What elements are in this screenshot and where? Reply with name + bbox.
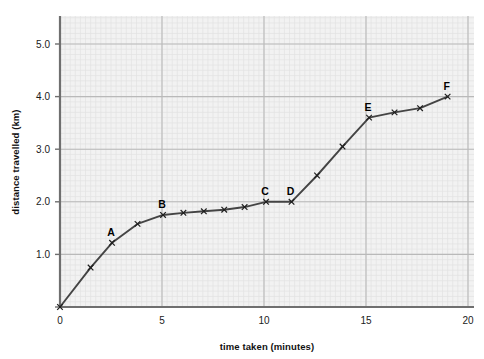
chart-canvas: 1.02.03.04.05.0 05101520 ABCDEF time tak… xyxy=(0,0,484,359)
point-label-f: F xyxy=(443,80,450,92)
point-label-a: A xyxy=(107,226,115,238)
point-label-e: E xyxy=(365,101,372,113)
point-label-c: C xyxy=(261,185,269,197)
x-tick-label: 5 xyxy=(159,315,165,326)
x-tick-label: 0 xyxy=(57,315,63,326)
y-tick-label: 2.0 xyxy=(36,196,50,207)
y-tick-label: 3.0 xyxy=(36,144,50,155)
point-label-b: B xyxy=(158,198,166,210)
y-axis-tick-labels: 1.02.03.04.05.0 xyxy=(36,39,50,260)
x-axis-title: time taken (minutes) xyxy=(220,341,314,352)
y-tick-label: 4.0 xyxy=(36,91,50,102)
x-tick-label: 15 xyxy=(360,315,372,326)
y-axis-title: distance travelled (km) xyxy=(10,109,21,214)
x-tick-label: 20 xyxy=(462,315,474,326)
distance-time-chart: 1.02.03.04.05.0 05101520 ABCDEF time tak… xyxy=(0,0,484,359)
x-tick-label: 10 xyxy=(258,315,270,326)
y-tick-label: 5.0 xyxy=(36,39,50,50)
x-axis-tick-labels: 05101520 xyxy=(57,315,474,326)
point-label-d: D xyxy=(287,185,295,197)
y-tick-label: 1.0 xyxy=(36,249,50,260)
